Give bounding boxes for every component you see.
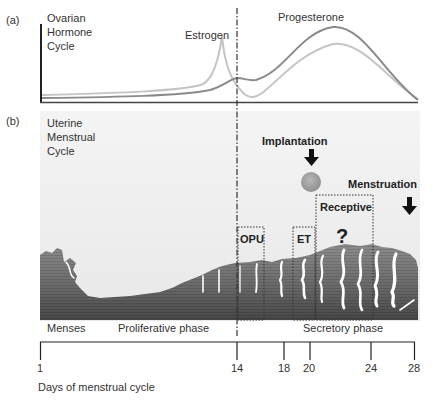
panel-b-title-line-1: Uterine [47,117,82,129]
embryo-icon [301,172,321,192]
question-mark: ? [336,225,348,247]
tick-label-day-28: 28 [408,362,420,374]
tick-label-day-20: 20 [303,362,315,374]
phase-labels: Menses Proliferative phase Secretory pha… [47,322,383,334]
panel-b-title-line-2: Menstrual [47,131,95,143]
opu-label: OPU [240,233,264,245]
panel-b-uterine-menstrual-cycle: (b) Uterine Menstrual Cycle [6,8,420,336]
panel-a-ovarian-hormone-cycle: (a) Ovarian Hormone Cycle Estrogen Proge… [6,11,418,103]
panel-b-title-line-3: Cycle [47,145,75,157]
panel-a-title-line-1: Ovarian [47,12,86,24]
panel-b-label: (b) [6,115,19,127]
days-axis: 1 14 18 20 24 28 Days of menstrual cycle [37,342,420,393]
et-label: ET [297,233,311,245]
tick-label-day-18: 18 [278,362,290,374]
estrogen-curve [42,36,418,99]
panel-a-title-line-3: Cycle [47,40,75,52]
estrogen-label: Estrogen [185,29,229,41]
tick-label-day-14: 14 [231,362,243,374]
menstruation-label: Menstruation [348,178,417,190]
receptive-label: Receptive [320,201,372,213]
panel-a-label: (a) [6,14,19,26]
days-axis-title: Days of menstrual cycle [38,381,155,393]
panel-a-title-line-2: Hormone [47,26,92,38]
menstrual-cycle-figure: (a) Ovarian Hormone Cycle Estrogen Proge… [0,0,433,401]
phase-proliferative: Proliferative phase [118,322,209,334]
phase-secretory: Secretory phase [303,322,383,334]
progesterone-label: Progesterone [278,11,344,23]
tick-label-day-1: 1 [37,362,43,374]
implantation-label: Implantation [262,135,328,147]
progesterone-curve [42,27,418,100]
phase-menses: Menses [47,322,86,334]
tick-label-day-24: 24 [365,362,377,374]
